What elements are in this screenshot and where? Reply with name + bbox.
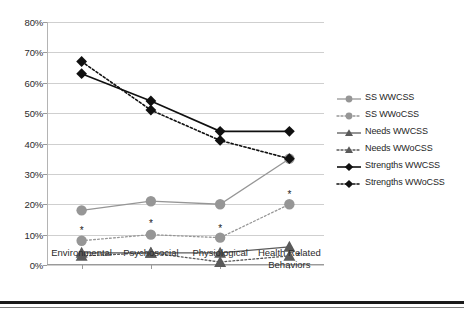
x-tickmark [82, 265, 83, 269]
legend-marker-icon [336, 142, 362, 154]
significance-asterisk: * [218, 224, 222, 234]
legend-item-needs-wwocss[interactable]: Needs WWoCSS [336, 139, 462, 156]
significance-asterisk: * [287, 190, 291, 200]
legend-marker-icon [336, 108, 362, 120]
legend-item-strengths-wwocss[interactable]: Strengths WWoCSS [336, 173, 462, 190]
legend-item-label: Strengths WWCSS [365, 160, 440, 170]
x-tick-label-psychosocial: Psychosocial [111, 247, 191, 259]
series-strengths-wwocss [76, 56, 295, 164]
y-tick-label: 10% [25, 229, 43, 240]
legend-item-ss-wwocss[interactable]: SS WWoCSS [336, 105, 462, 122]
data-point-marker [76, 236, 86, 246]
legend-item-label: Needs WWoCSS [365, 143, 433, 153]
plot-area: ***** [47, 22, 324, 265]
y-tick-label: 0% [30, 260, 43, 271]
series-strengths-wwcss [76, 68, 295, 137]
significance-asterisk: * [80, 226, 84, 236]
legend-marker-icon [336, 159, 362, 171]
x-tick-label-physiological: Physiological [180, 247, 260, 259]
y-tick-label: 30% [25, 168, 43, 179]
bottom-border-rule [0, 301, 464, 304]
legend-item-label: Strengths WWoCSS [365, 177, 445, 187]
data-point-marker [145, 105, 156, 116]
chart-legend: SS WWCSSSS WWoCSSNeeds WWCSSNeeds WWoCSS… [336, 88, 462, 190]
series-line [82, 204, 290, 240]
chart-figure: 0%10%20%30%40%50%60%70%80% ***** Environ… [0, 0, 464, 310]
x-tickmark [151, 265, 152, 269]
y-axis-labels: 0%10%20%30%40%50%60%70%80% [0, 22, 43, 265]
legend-marker-icon [336, 91, 362, 103]
series-ss-wwcss [76, 153, 294, 215]
x-tick-label-environmental: Environmental [42, 247, 122, 259]
data-point-marker [215, 199, 225, 209]
series-line [82, 74, 290, 132]
legend-item-label: SS WWoCSS [365, 109, 419, 119]
legend-item-label: Needs WWCSS [365, 126, 428, 136]
y-tick-label: 70% [25, 47, 43, 58]
significance-asterisk: * [149, 219, 153, 229]
legend-item-ss-wwcss[interactable]: SS WWCSS [336, 88, 462, 105]
legend-item-strengths-wwcss[interactable]: Strengths WWCSS [336, 156, 462, 173]
y-tick-label: 40% [25, 138, 43, 149]
data-point-marker [215, 232, 225, 242]
data-point-marker [146, 196, 156, 206]
data-point-marker [76, 68, 87, 79]
data-point-marker [284, 126, 295, 137]
y-tickmark [43, 265, 47, 266]
legend-item-needs-wwcss[interactable]: Needs WWCSS [336, 122, 462, 139]
x-tick-label-health-related-behaviors: Health Related Behaviors [249, 247, 329, 271]
legend-marker-icon [336, 176, 362, 188]
data-point-marker [146, 229, 156, 239]
series-line [82, 61, 290, 158]
data-point-marker [284, 153, 295, 164]
data-point-marker [284, 199, 294, 209]
series-layer [47, 22, 324, 265]
series-line [82, 159, 290, 211]
y-tick-label: 20% [25, 199, 43, 210]
legend-item-label: SS WWCSS [365, 92, 414, 102]
y-tick-label: 50% [25, 108, 43, 119]
legend-marker-icon [336, 125, 362, 137]
data-point-marker [76, 205, 86, 215]
y-tick-label: 60% [25, 77, 43, 88]
data-point-marker [215, 135, 226, 146]
y-tick-label: 80% [25, 17, 43, 28]
data-point-marker [76, 56, 87, 67]
bottom-border-rule-thin [0, 307, 464, 308]
